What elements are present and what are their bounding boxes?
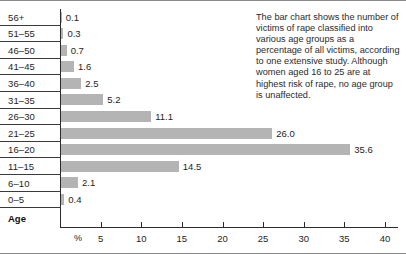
caption-text: The bar chart shows the number of victim… [256, 12, 402, 101]
category-label: 56+ [8, 13, 24, 23]
category-label: 16–20 [8, 145, 35, 155]
x-axis-tick [344, 222, 345, 227]
bar-value-label: 14.5 [183, 161, 202, 172]
category-label: 31–35 [8, 96, 35, 106]
category-row: 6–10 [0, 175, 61, 192]
category-row: 11–15 [0, 158, 61, 175]
x-axis-tick [182, 222, 183, 227]
chart-caption: The bar chart shows the number of victim… [256, 12, 402, 101]
category-row: 26–30 [0, 109, 61, 126]
bar [61, 28, 63, 39]
category-row: 36–40 [0, 75, 61, 92]
bar-value-label: 1.6 [78, 61, 91, 72]
x-axis-tick-label: 25 [251, 233, 275, 244]
bar-row: 0.4 [61, 192, 406, 209]
x-axis-tick-label: 20 [211, 233, 235, 244]
x-axis-tick [385, 222, 386, 227]
category-row: 56+ [0, 9, 61, 26]
category-label: 51–55 [8, 29, 35, 39]
bar-value-label: 5.2 [107, 94, 120, 105]
x-axis-tick [141, 222, 142, 227]
x-axis-tick-label: 10 [129, 233, 153, 244]
x-axis-tick-label: 35 [332, 233, 356, 244]
x-axis-tick [101, 222, 102, 227]
category-label: 21–25 [8, 129, 35, 139]
x-axis-unit-label: % [74, 233, 82, 244]
bar-row: 2.1 [61, 175, 406, 192]
x-axis-tick-label: 5 [89, 233, 113, 244]
bar-value-label: 26.0 [276, 128, 295, 139]
bar-value-label: 0.3 [67, 28, 80, 39]
bar-row: 11.1 [61, 109, 406, 126]
x-axis-tick-label: 40 [373, 233, 397, 244]
bar [61, 111, 151, 122]
bar-row: 26.0 [61, 125, 406, 142]
x-axis-tick [223, 222, 224, 227]
category-label: 0–5 [8, 195, 24, 205]
bar [61, 177, 78, 188]
category-row: 41–45 [0, 59, 61, 76]
bar-row: 35.6 [61, 142, 406, 159]
category-label: 6–10 [8, 179, 30, 189]
x-axis-line [60, 227, 398, 228]
category-label: 36–40 [8, 79, 35, 89]
category-label: 26–30 [8, 112, 35, 122]
x-axis-tick [263, 222, 264, 227]
bar-value-label: 2.5 [85, 78, 98, 89]
bar-value-label: 0.4 [68, 194, 81, 205]
x-axis-tick-label: 15 [170, 233, 194, 244]
bar-value-label: 0.1 [66, 12, 79, 23]
bar-value-label: 11.1 [155, 111, 173, 122]
bar-value-label: 0.7 [71, 45, 84, 56]
bar-chart-figure: 56+51–5546–5041–4536–4031–3526–3021–2516… [0, 0, 406, 254]
category-row: 46–50 [0, 42, 61, 59]
bar [61, 161, 179, 172]
category-row: 0–5 [0, 192, 61, 209]
category-row: 51–55 [0, 26, 61, 43]
bar [61, 128, 272, 139]
category-label: 11–15 [8, 162, 34, 172]
category-row: 16–20 [0, 142, 61, 159]
bar-value-label: 2.1 [82, 177, 95, 188]
bar [61, 61, 74, 72]
x-axis-tick [304, 222, 305, 227]
bar [61, 194, 64, 205]
bar [61, 12, 62, 23]
bar-value-label: 35.6 [354, 144, 373, 155]
category-label: 46–50 [8, 46, 35, 56]
bar [61, 45, 67, 56]
bar [61, 94, 103, 105]
category-label: 41–45 [8, 62, 35, 72]
bar [61, 78, 81, 89]
bar-row: 14.5 [61, 158, 406, 175]
y-axis-title: Age [8, 213, 26, 225]
category-row: 31–35 [0, 92, 61, 109]
x-axis-tick-label: 30 [292, 233, 316, 244]
category-row: 21–25 [0, 125, 61, 142]
bar [61, 144, 350, 155]
